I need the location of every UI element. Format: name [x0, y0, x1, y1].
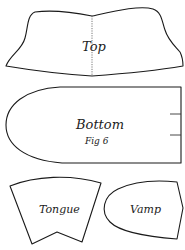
piece-bottom: Bottom Fig 6	[6, 87, 181, 163]
vamp-label: Vamp	[130, 203, 161, 216]
pattern-diagram: Top Bottom Fig 6 Tongue Vamp	[0, 0, 185, 250]
piece-tongue: Tongue	[10, 177, 101, 244]
piece-vamp: Vamp	[104, 181, 183, 239]
piece-top: Top	[6, 8, 183, 76]
figure-caption: Fig 6	[84, 136, 109, 146]
top-label: Top	[82, 39, 106, 54]
bottom-label: Bottom	[75, 117, 124, 132]
tongue-label: Tongue	[39, 203, 80, 216]
